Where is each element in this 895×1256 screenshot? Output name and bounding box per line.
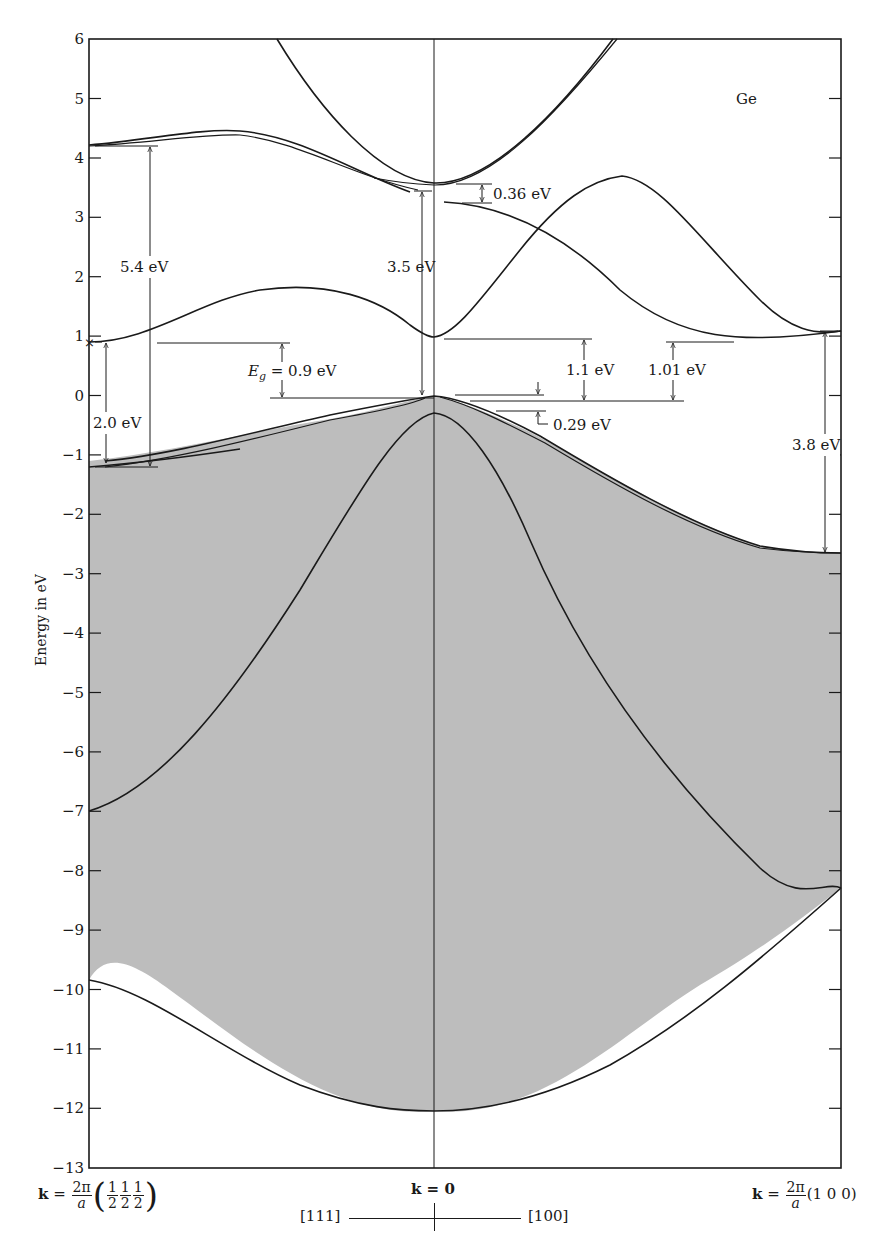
equals-sign: = xyxy=(767,1185,780,1203)
annotation-3-8-ev: 3.8 eV xyxy=(792,331,842,552)
y-axis-title: Energy in eV xyxy=(33,573,49,666)
ytick-label: −1 xyxy=(62,446,84,464)
equals-sign: = xyxy=(53,1185,66,1203)
annotation-0-36-ev: 0.36 eV xyxy=(456,184,552,203)
material-label: Ge xyxy=(736,90,757,108)
annotation-3-5-ev: 3.5 eV xyxy=(386,191,437,395)
ytick-label: −9 xyxy=(62,921,84,939)
k-symbol: k xyxy=(38,1185,48,1203)
k-symbol: k xyxy=(752,1185,762,1203)
L-point-cross-marker: × xyxy=(84,335,95,350)
ytick-label: 4 xyxy=(74,149,84,167)
band-lowest-conduction xyxy=(89,176,841,342)
ytick-label: −4 xyxy=(62,624,84,642)
band-upper-conduction-b xyxy=(374,39,617,185)
ytick-label: 5 xyxy=(74,90,84,108)
ytick-label: 0 xyxy=(74,387,84,405)
band-upper-conduction-a xyxy=(277,39,613,183)
direction-vector: (1 0 0) xyxy=(807,1185,857,1203)
ytick-label: −5 xyxy=(62,684,84,702)
ytick-label: −8 xyxy=(62,862,84,880)
direction-indicator-line xyxy=(349,1218,521,1219)
component-fraction: 1 2 xyxy=(107,1180,118,1210)
svg-text:5.4 eV: 5.4 eV xyxy=(120,258,170,276)
band-conduction-L-upper-a xyxy=(89,131,410,192)
prefactor-fraction: 2π a xyxy=(72,1180,92,1210)
eg-label: Eg = 0.9 eV xyxy=(247,362,338,383)
ytick-label: 6 xyxy=(74,30,84,48)
ytick-label: −6 xyxy=(62,743,84,761)
ytick-label: 2 xyxy=(74,268,84,286)
component-fraction: 1 2 xyxy=(120,1180,131,1210)
svg-text:3.8 eV: 3.8 eV xyxy=(792,436,842,454)
close-paren: ) xyxy=(145,1175,158,1215)
y-axis-labels: 6 5 4 3 2 1 0 −1 −2 −3 −4 −5 −6 −7 −8 −9… xyxy=(52,30,84,1177)
svg-text:1.1 eV: 1.1 eV xyxy=(566,361,616,379)
band-structure-chart: 6 5 4 3 2 1 0 −1 −2 −3 −4 −5 −6 −7 −8 −9… xyxy=(0,0,895,1256)
annotation-2-0-ev: 2.0 eV xyxy=(92,342,143,463)
prefactor-fraction: 2π a xyxy=(786,1180,806,1210)
ytick-label: −13 xyxy=(52,1159,84,1177)
direction-label-111: [111] xyxy=(300,1207,340,1225)
ytick-label: −3 xyxy=(62,565,84,583)
svg-text:3.5 eV: 3.5 eV xyxy=(387,258,437,276)
ytick-label: −7 xyxy=(62,802,84,820)
ytick-label: −12 xyxy=(52,1099,84,1117)
component-fraction: 1 2 xyxy=(133,1180,144,1210)
ytick-label: 3 xyxy=(74,208,84,226)
open-paren: ( xyxy=(93,1175,106,1215)
direction-label-100: [100] xyxy=(528,1207,568,1225)
valence-band-shading xyxy=(89,396,841,1112)
ytick-label: −10 xyxy=(52,981,84,999)
ytick-label: −2 xyxy=(62,505,84,523)
ytick-label: −11 xyxy=(52,1040,84,1058)
svg-text:1.01 eV: 1.01 eV xyxy=(648,361,707,379)
annotation-eg-0-9-ev: Eg = 0.9 eV xyxy=(157,343,434,398)
svg-text:0.36 eV: 0.36 eV xyxy=(493,185,552,203)
x-label-center-gamma: k = 0 xyxy=(411,1180,455,1198)
direction-indicator-center-tick xyxy=(434,1203,435,1231)
svg-text:0.29 eV: 0.29 eV xyxy=(553,416,612,434)
x-label-left-L-point: k = 2π a ( 1 2 1 2 1 2 ) xyxy=(38,1178,158,1212)
svg-text:2.0 eV: 2.0 eV xyxy=(93,414,143,432)
ytick-label: 1 xyxy=(74,327,84,345)
annotation-1-01-ev: 1.01 eV xyxy=(648,342,734,400)
x-label-right-X-point: k = 2π a (1 0 0) xyxy=(752,1180,857,1210)
band-conduction-L-upper-b xyxy=(89,135,418,190)
